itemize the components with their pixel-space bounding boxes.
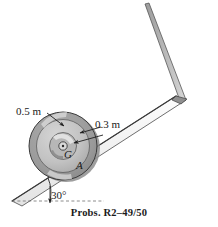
label-contact-point: A <box>76 160 83 171</box>
upper-arm-body <box>145 3 186 101</box>
figure-root: 0.5 m 0.3 m G A 30° Probs. R2–49/50 <box>0 0 218 227</box>
wheel-assembly <box>29 112 100 182</box>
upper-arm <box>145 3 186 101</box>
label-outer-radius: 0.5 m <box>16 106 41 117</box>
axle-center-dot <box>62 145 64 147</box>
figure-caption: Probs. R2–49/50 <box>0 207 218 218</box>
label-center-of-gravity: G <box>64 149 72 160</box>
label-inner-radius: 0.3 m <box>95 119 120 130</box>
label-incline-angle: 30° <box>51 190 66 201</box>
